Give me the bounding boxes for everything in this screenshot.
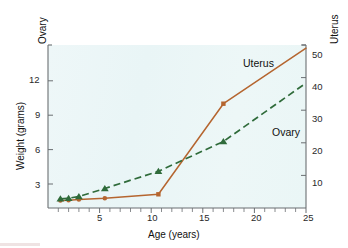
y-left-ticks — [48, 81, 53, 184]
series-uterus — [58, 48, 306, 203]
x-ticks — [58, 208, 306, 213]
axis-right — [302, 45, 306, 208]
y-right-ticks — [301, 45, 306, 175]
series-ovary — [57, 83, 307, 202]
footer-rule — [0, 243, 40, 246]
chart-canvas — [0, 0, 348, 248]
chart-figure: Ovary Uterus Weight (grams) Age (years) … — [0, 0, 348, 248]
